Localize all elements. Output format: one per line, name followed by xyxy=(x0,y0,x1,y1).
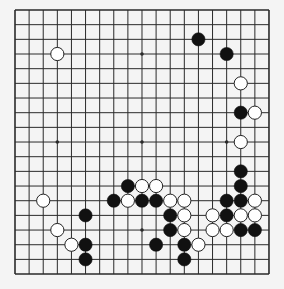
black-stone xyxy=(220,194,233,207)
white-stone xyxy=(150,179,163,192)
black-stone xyxy=(192,33,205,46)
black-stone xyxy=(234,106,247,119)
white-stone xyxy=(51,47,64,60)
white-stone xyxy=(121,194,134,207)
black-stone xyxy=(234,179,247,192)
white-stone xyxy=(234,135,247,148)
black-stone xyxy=(164,223,177,236)
black-stone xyxy=(150,238,163,251)
star-point xyxy=(225,140,229,144)
white-stone xyxy=(135,179,148,192)
black-stone xyxy=(248,223,261,236)
white-stone xyxy=(234,209,247,222)
white-stone xyxy=(178,194,191,207)
black-stone xyxy=(79,209,92,222)
white-stone xyxy=(37,194,50,207)
white-stone xyxy=(178,209,191,222)
black-stone xyxy=(164,209,177,222)
white-stone xyxy=(248,106,261,119)
go-board[interactable] xyxy=(0,0,284,289)
black-stone xyxy=(220,209,233,222)
black-stone xyxy=(121,179,134,192)
white-stone xyxy=(178,223,191,236)
star-point xyxy=(140,52,144,56)
white-stone xyxy=(220,223,233,236)
black-stone xyxy=(79,253,92,266)
star-point xyxy=(140,228,144,232)
white-stone xyxy=(51,223,64,236)
star-point xyxy=(140,140,144,144)
white-stone xyxy=(206,209,219,222)
black-stone xyxy=(234,194,247,207)
star-point xyxy=(56,140,60,144)
white-stone xyxy=(192,238,205,251)
white-stone xyxy=(65,238,78,251)
white-stone xyxy=(206,223,219,236)
white-stone xyxy=(248,209,261,222)
black-stone xyxy=(150,194,163,207)
black-stone xyxy=(234,223,247,236)
black-stone xyxy=(79,238,92,251)
black-stone xyxy=(178,238,191,251)
black-stone xyxy=(234,165,247,178)
black-stone xyxy=(135,194,148,207)
black-stone xyxy=(107,194,120,207)
black-stone xyxy=(220,47,233,60)
white-stone xyxy=(234,77,247,90)
white-stone xyxy=(248,194,261,207)
white-stone xyxy=(164,194,177,207)
black-stone xyxy=(178,253,191,266)
